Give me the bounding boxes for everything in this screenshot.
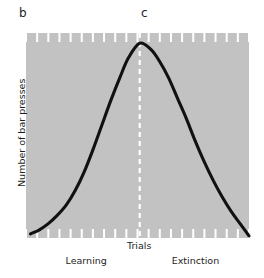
panel-label-c: c [141,7,148,19]
top-tick-marks [26,33,249,42]
panel-label-b: b [19,7,27,19]
phase-label-learning: Learning [46,255,126,266]
phase-label-extinction: Extinction [155,255,235,266]
bottom-tick-marks [26,229,249,238]
plot-svg [26,33,249,238]
y-axis-label: Number of bar presses [16,79,27,187]
figure-panel-bc: b c Number of bar presses Trials Learnin… [0,0,264,278]
x-axis-label: Trials [7,240,264,251]
plot-area [26,33,249,238]
